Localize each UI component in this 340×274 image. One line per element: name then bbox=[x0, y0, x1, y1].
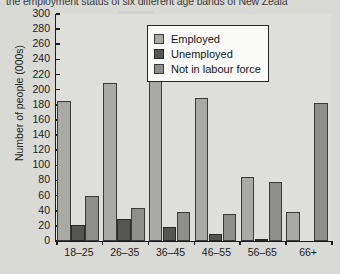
y-axis-tick-label: 60 bbox=[38, 189, 50, 201]
y-axis-tick-label: 180 bbox=[32, 98, 50, 110]
bar bbox=[57, 101, 71, 241]
y-axis-tick-label: 220 bbox=[32, 68, 50, 80]
x-axis-tick-mark bbox=[239, 241, 241, 245]
bar bbox=[286, 212, 300, 242]
y-axis-tick-label: 160 bbox=[32, 113, 50, 125]
legend-swatch-icon bbox=[154, 64, 164, 74]
bar bbox=[195, 98, 209, 241]
legend-item-label: Employed bbox=[171, 33, 220, 45]
bar bbox=[71, 225, 85, 241]
bar bbox=[103, 83, 117, 241]
y-axis-tick-label: 200 bbox=[32, 83, 50, 95]
x-axis-tick-label: 66+ bbox=[285, 246, 331, 258]
x-axis-tick-mark bbox=[102, 241, 104, 245]
bar bbox=[209, 234, 223, 241]
legend-item-label: Not in labour force bbox=[171, 63, 261, 75]
bar bbox=[269, 182, 283, 241]
legend-item-employed[interactable]: Employed bbox=[154, 31, 261, 46]
y-axis-tick-label: 240 bbox=[32, 52, 50, 64]
y-axis-tick-label: 280 bbox=[32, 22, 50, 34]
x-axis-tick-mark bbox=[56, 241, 58, 245]
bar bbox=[117, 219, 131, 241]
y-axis-tick-label: 40 bbox=[38, 204, 50, 216]
legend-item-nilf[interactable]: Not in labour force bbox=[154, 61, 261, 76]
legend-item-label: Unemployed bbox=[171, 48, 233, 60]
bar-group bbox=[103, 14, 145, 241]
bar-chart-figure: Number of people (000s) 0204060801001201… bbox=[0, 9, 340, 267]
x-axis-tick-mark bbox=[285, 241, 287, 245]
bar bbox=[163, 227, 177, 241]
x-axis-tick-label: 36–45 bbox=[148, 246, 194, 258]
bar-group bbox=[57, 14, 99, 241]
x-axis-tick-label: 18–25 bbox=[56, 246, 102, 258]
bar bbox=[85, 196, 99, 241]
legend-swatch-icon bbox=[154, 34, 164, 44]
bar bbox=[241, 177, 255, 241]
bar bbox=[177, 212, 191, 242]
figure-caption: the employment status of six different a… bbox=[6, 0, 340, 9]
bar bbox=[255, 239, 269, 241]
y-axis-tick-label: 100 bbox=[32, 158, 50, 170]
chart-legend: EmployedUnemployedNot in labour force bbox=[147, 25, 269, 82]
y-axis-tick-label: 20 bbox=[38, 219, 50, 231]
y-axis-tick-label: 0 bbox=[44, 234, 50, 246]
bar bbox=[314, 103, 328, 241]
x-axis-tick-label: 26–35 bbox=[102, 246, 148, 258]
y-axis-tick-label: 140 bbox=[32, 128, 50, 140]
y-axis-tick-label: 260 bbox=[32, 37, 50, 49]
y-axis-tick-label: 300 bbox=[32, 7, 50, 19]
y-axis-tick-label: 80 bbox=[38, 173, 50, 185]
y-axis-tick-label: 120 bbox=[32, 143, 50, 155]
x-axis-tick-mark bbox=[331, 241, 333, 245]
x-axis-tick-mark bbox=[148, 241, 150, 245]
x-axis-tick-mark bbox=[194, 241, 196, 245]
bar bbox=[223, 214, 237, 241]
legend-swatch-icon bbox=[154, 49, 164, 59]
x-axis-tick-label: 46–55 bbox=[194, 246, 240, 258]
bar bbox=[131, 208, 145, 241]
x-axis-tick-label: 56–65 bbox=[239, 246, 285, 258]
bar-group bbox=[286, 14, 328, 241]
y-axis-title: Number of people (000s) bbox=[13, 28, 25, 178]
legend-item-unemployed[interactable]: Unemployed bbox=[154, 46, 261, 61]
